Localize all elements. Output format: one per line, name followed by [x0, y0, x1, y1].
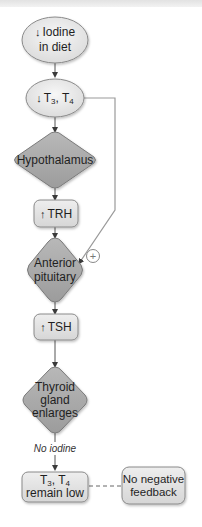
node-t3t4-remain-low: T3, T4 remain low	[22, 472, 88, 502]
up-arrow-icon: ↑	[40, 208, 46, 220]
node-iodine: ↓Iodine in diet	[22, 17, 88, 63]
down-arrow-icon: ↓	[35, 26, 41, 38]
node-trh: ↑TRH	[34, 200, 78, 227]
node-no-negative-feedback: No negative feedback	[122, 467, 185, 504]
up-arrow-icon: ↑	[40, 321, 46, 333]
edge-label-no-iodine: No iodine	[25, 443, 85, 454]
node-t3t4-decrease: ↓T3, T4	[26, 79, 84, 117]
node-hypothalamus: Hypothalamus	[13, 132, 97, 188]
node-tsh: ↑TSH	[34, 314, 78, 340]
node-anterior-pituitary: Anterior pituitary	[26, 238, 84, 302]
down-arrow-icon: ↓	[36, 92, 42, 104]
node-thyroid: Thyroid gland enlarges	[21, 367, 89, 433]
plus-circle-icon: +	[86, 249, 100, 263]
